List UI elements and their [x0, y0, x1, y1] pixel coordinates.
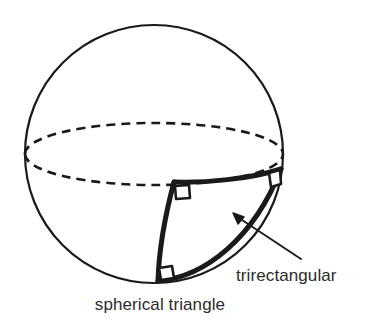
right-angle-marker-bottom	[159, 266, 174, 280]
label-spherical-triangle: spherical triangle	[95, 295, 225, 314]
label-trirectangular: trirectangular	[236, 266, 337, 285]
right-angle-marker-right	[269, 170, 281, 187]
right-angle-marker-top	[175, 185, 190, 199]
diagram-figure: trirectangular spherical triangle	[0, 0, 368, 322]
spherical-triangle-diagram: trirectangular spherical triangle	[0, 0, 368, 322]
